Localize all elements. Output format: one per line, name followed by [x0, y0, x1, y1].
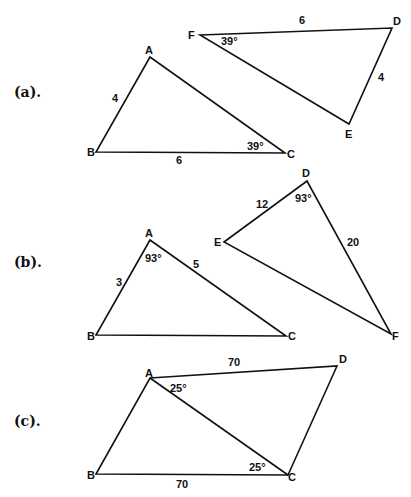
vertex-b: B	[87, 146, 95, 158]
vertex-e: E	[345, 128, 352, 140]
side-bc-length: 70	[176, 478, 188, 490]
side-ad-length: 70	[228, 356, 240, 368]
triangle-abc-a: A B C 4 6 39°	[87, 44, 295, 166]
vertex-c: C	[288, 330, 296, 342]
vertex-a: A	[145, 44, 153, 56]
triangle-def-a: F D E 6 4 39°	[188, 14, 401, 140]
part-label-a: (a).	[14, 84, 41, 100]
triangle-def-b: D E F 12 20 93°	[214, 167, 399, 342]
side-de-length: 4	[378, 71, 385, 83]
triangle-abc-shape	[96, 57, 285, 153]
vertex-c: C	[287, 148, 295, 160]
side-df-length: 20	[347, 236, 359, 248]
vertex-d: D	[339, 353, 347, 365]
angle-c-measure: 39°	[247, 140, 264, 152]
angle-dac-measure: 25°	[170, 382, 187, 394]
triangle-abc-b: A B C 3 5 93°	[87, 227, 296, 342]
side-ab-length: 3	[116, 276, 122, 288]
side-ac-length: 5	[193, 258, 199, 270]
angle-d-measure: 93°	[295, 192, 312, 204]
vertex-f: F	[188, 29, 195, 41]
side-de-length: 12	[256, 198, 268, 210]
geometry-figure: (a). A B C 4 6 39° F D E 6 4 39° (b). A …	[0, 0, 411, 497]
angle-a-measure: 93°	[145, 252, 162, 264]
angle-acb-measure: 25°	[249, 461, 266, 473]
vertex-b: B	[87, 469, 95, 481]
vertex-f: F	[392, 330, 399, 342]
vertex-b: B	[87, 330, 95, 342]
figure-b: (b). A B C 3 5 93° D E F 12 20 93°	[14, 167, 399, 342]
part-label-b: (b).	[14, 254, 42, 270]
vertex-c: C	[288, 471, 296, 483]
figure-a: (a). A B C 4 6 39° F D E 6 4 39°	[14, 14, 401, 166]
figure-c: (c). A B C D 70 70 25° 25°	[14, 353, 347, 490]
vertex-d: D	[393, 15, 401, 27]
vertex-e: E	[214, 236, 221, 248]
side-ab-length: 4	[112, 92, 119, 104]
triangle-abc-shape	[96, 240, 286, 336]
quadrilateral-shape	[96, 366, 337, 475]
angle-f-measure: 39°	[221, 35, 238, 47]
vertex-a: A	[145, 227, 153, 239]
quadrilateral-abcd: A B C D 70 70 25° 25°	[87, 353, 347, 490]
vertex-a: A	[145, 367, 153, 379]
side-bc-length: 6	[176, 154, 182, 166]
vertex-d: D	[302, 167, 310, 179]
part-label-c: (c).	[14, 413, 41, 429]
side-fd-length: 6	[299, 14, 305, 26]
